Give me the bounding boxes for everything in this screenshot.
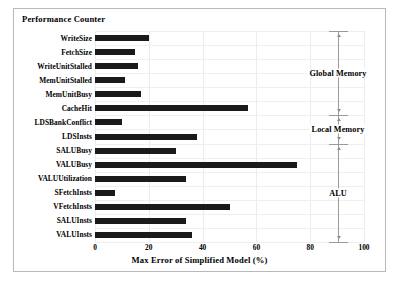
group-label: Global Memory <box>307 69 368 78</box>
bracket-arrow-down-icon <box>337 109 341 112</box>
group-bracket-cap <box>329 242 348 243</box>
group-bracket-cap <box>329 31 348 32</box>
group-label: ALU <box>327 188 349 197</box>
bracket-arrow-down-icon <box>337 236 341 239</box>
bracket-arrow-down-icon <box>337 137 341 140</box>
bracket-arrow-up-icon <box>337 34 341 37</box>
bracket-arrow-up-icon <box>337 118 341 121</box>
group-bracket-cap <box>329 115 348 116</box>
bracket-arrow-up-icon <box>337 147 341 150</box>
group-label: Local Memory <box>310 125 367 134</box>
group-bracket-cap <box>329 144 348 145</box>
group-bracket-layer: Global MemoryLocal MemoryALU <box>0 0 405 281</box>
figure-bar-chart: Performance Counter WriteSizeFetchSizeWr… <box>0 0 405 281</box>
